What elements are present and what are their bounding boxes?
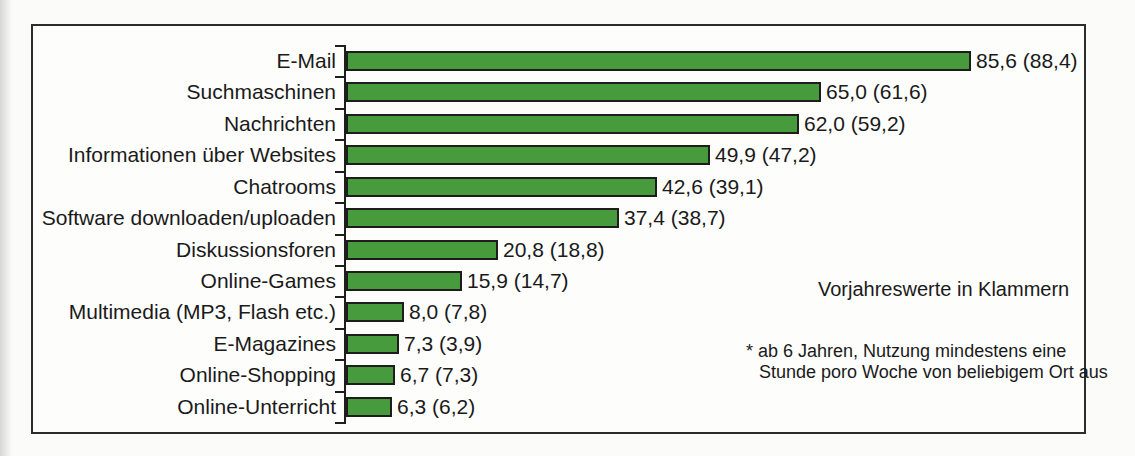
bar [346,334,399,354]
category-label: Software downloaden/uploaden [40,207,336,229]
category-label: Chatrooms [40,176,336,198]
axis-tick [335,108,345,110]
category-label: Informationen über Websites [40,144,336,166]
previous-year-note: Vorjahreswerte in Klammern [818,278,1069,301]
value-label: 62,0 (59,2) [804,113,906,135]
value-label: 85,6 (88,4) [976,50,1078,72]
bar [346,145,710,165]
category-label: Online-Games [40,270,336,292]
axis-tick [335,171,345,173]
value-label: 7,3 (3,9) [404,333,482,355]
category-label: E-Magazines [40,333,336,355]
category-label: Nachrichten [40,113,336,135]
value-label: 49,9 (47,2) [715,144,817,166]
axis-tick [335,45,345,47]
footnote-line-1: * ab 6 Jahren, Nutzung mindestens eine [746,341,1108,362]
axis-tick [335,139,345,141]
value-label: 42,6 (39,1) [662,176,764,198]
value-label: 65,0 (61,6) [826,81,928,103]
scanned-chart-page: E-Mail85,6 (88,4)Suchmaschinen65,0 (61,6… [0,0,1135,456]
footnote: * ab 6 Jahren, Nutzung mindestens eine S… [746,341,1108,383]
axis-tick [335,76,345,78]
bar [346,271,462,291]
category-label: Online-Shopping [40,364,336,386]
bar [346,397,392,417]
value-label: 37,4 (38,7) [624,207,726,229]
category-label: E-Mail [40,50,336,72]
bar [346,51,971,71]
category-label: Suchmaschinen [40,81,336,103]
value-label: 8,0 (7,8) [409,301,487,323]
category-label: Online-Unterricht [40,396,336,418]
axis-tick [335,234,345,236]
axis-tick [335,328,345,330]
value-label: 6,3 (6,2) [397,396,475,418]
category-label: Multimedia (MP3, Flash etc.) [40,301,336,323]
scan-edge-shadow [0,0,12,456]
bar [346,114,799,134]
axis-tick [335,422,345,424]
bar [346,82,821,102]
bar [346,208,619,228]
value-label: 15,9 (14,7) [467,270,569,292]
axis-tick [335,265,345,267]
bar [346,365,395,385]
bar [346,302,404,322]
axis-tick [335,296,345,298]
axis-tick [335,391,345,393]
value-label: 20,8 (18,8) [503,239,605,261]
bar [346,177,657,197]
category-label: Diskussionsforen [40,239,336,261]
bar [346,240,498,260]
axis-tick [335,359,345,361]
axis-tick [335,202,345,204]
footnote-line-2: Stunde poro Woche von beliebigem Ort aus [746,362,1108,383]
value-label: 6,7 (7,3) [400,364,478,386]
